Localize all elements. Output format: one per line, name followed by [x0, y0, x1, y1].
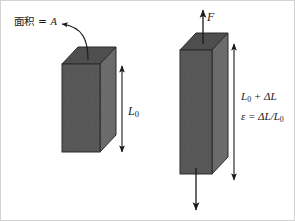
force-symbol: F	[207, 10, 214, 24]
unstressed-side-face	[100, 47, 116, 152]
original-length-label: L0	[128, 105, 139, 119]
stretched-length-label: L0 + ΔL	[241, 91, 277, 104]
unstressed-specimen	[62, 47, 116, 152]
unstressed-front-face	[62, 64, 100, 152]
strain-subscript: 0	[280, 115, 284, 124]
stressed-side-face	[212, 33, 228, 174]
area-symbol: A	[50, 16, 57, 27]
strain-equation-label: ε = ΔL/L0	[241, 111, 284, 124]
strain-equation-body: = ΔL/L	[245, 110, 279, 122]
area-label: 面积 = A	[14, 16, 57, 28]
original-length-symbol: L	[128, 104, 135, 118]
stressed-specimen	[180, 33, 228, 174]
figure-container: 面积 = A L0 F L0 + ΔL ε = ΔL/L0	[0, 0, 295, 221]
stretched-length-delta: + ΔL	[251, 90, 277, 102]
area-label-text: 面积 =	[14, 15, 50, 27]
force-label: F	[207, 11, 214, 23]
stressed-front-face	[180, 50, 212, 174]
original-length-subscript: 0	[135, 109, 139, 119]
